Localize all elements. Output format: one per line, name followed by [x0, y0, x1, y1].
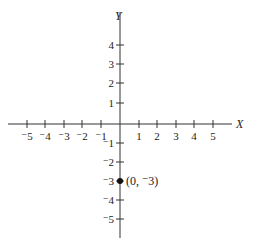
data-point [117, 178, 123, 184]
point-label: (0, ⁻3) [126, 174, 158, 188]
y-tick-label: 1 [109, 97, 115, 109]
y-tick-label: 2 [109, 77, 115, 89]
y-tick-label: ⁻4 [103, 194, 115, 206]
y-tick-label: ⁻2 [103, 156, 114, 168]
y-tick-label: ⁻5 [103, 213, 115, 225]
x-tick-label: ⁻5 [21, 130, 33, 142]
x-ticks: ⁻5⁻4⁻3⁻2⁻112345 [21, 120, 216, 142]
x-tick-label: ⁻3 [58, 130, 70, 142]
x-tick-label: ⁻4 [39, 130, 51, 142]
y-tick-label: 3 [109, 58, 115, 70]
y-tick-label: 4 [109, 39, 115, 51]
coordinate-plane: ⁻5⁻4⁻3⁻2⁻112345 4321⁻1⁻2⁻3⁻4⁻5 X Y (0, ⁻… [0, 0, 256, 247]
y-tick-label: ⁻1 [103, 137, 114, 149]
y-axis-label: Y [115, 9, 123, 23]
x-tick-label: ⁻2 [76, 130, 87, 142]
x-tick-label: 3 [173, 130, 179, 142]
x-tick-label: 1 [136, 130, 142, 142]
x-tick-label: 2 [154, 130, 160, 142]
y-tick-label: ⁻3 [103, 175, 115, 187]
x-tick-label: 4 [191, 130, 197, 142]
x-tick-label: 5 [210, 130, 216, 142]
x-axis-label: X [235, 117, 244, 131]
